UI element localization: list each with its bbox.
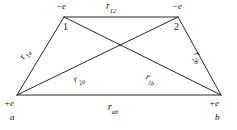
charge-label-bottom-right: +e	[209, 99, 219, 108]
vertex-label-b: b	[215, 113, 220, 122]
vertex-label-one: 1	[63, 22, 68, 32]
figure-container: −e −e +e +e 1 2 a b r12 r1a r2b r2a r1b …	[0, 0, 237, 130]
diagram-lines	[0, 0, 237, 130]
distance-bottom-sub: ab	[112, 108, 119, 115]
distance-label-bottom: rab	[108, 103, 118, 113]
distance-top-sub: 12	[110, 7, 117, 14]
vertex-label-two: 2	[174, 22, 179, 32]
distance-label-top: r12	[106, 2, 116, 12]
charge-label-bottom-left: +e	[4, 99, 14, 108]
charge-label-top-right: −e	[172, 2, 182, 11]
charge-label-top-left: −e	[56, 2, 66, 11]
vertex-label-a: a	[10, 113, 15, 122]
